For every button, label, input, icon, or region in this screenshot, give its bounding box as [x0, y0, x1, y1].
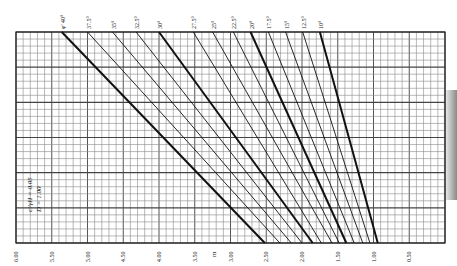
- phi-labels: φ' 40°37.5°35°32.5°30°27.5°25°22.5°20°17…: [60, 14, 324, 29]
- x-tick-label: 2.50: [263, 252, 269, 263]
- page-edge-shadow: [443, 90, 457, 200]
- parameter-annotation: c'/γH = 0.05 D = 1.00: [26, 177, 43, 213]
- phi-label: 25°: [211, 20, 217, 29]
- phi-label: 20°: [249, 20, 255, 29]
- phi-label: 35°: [111, 20, 117, 29]
- x-tick-label: 5.00: [85, 252, 91, 263]
- phi-label: 37.5°: [86, 16, 92, 30]
- x-tick-label: 3.00: [228, 252, 234, 263]
- phi-label: 30°: [157, 20, 163, 29]
- x-tick-label: 3.50: [192, 252, 198, 263]
- slope-stability-chart: φ' 40°37.5°35°32.5°30°27.5°25°22.5°20°17…: [0, 0, 457, 266]
- c-gammaH-label: c'/γH = 0.05: [26, 177, 34, 212]
- phi-label: 17.5°: [266, 16, 272, 30]
- x-tick-label: 0.50: [406, 252, 412, 263]
- x-tick-label: 2.00: [299, 252, 305, 263]
- x-tick-label: 4.00: [156, 252, 162, 263]
- phi-label: φ' 40°: [60, 14, 66, 29]
- phi-label: 32.5°: [134, 16, 140, 30]
- phi-label: 22.5°: [231, 16, 237, 30]
- phi-label: 15°: [284, 20, 290, 29]
- x-tick-label: 1.50: [335, 252, 341, 263]
- D-label: D = 1.00: [35, 186, 43, 213]
- phi-label: 12.5°: [301, 16, 307, 30]
- x-tick-label: 4.50: [120, 252, 126, 263]
- x-tick-label: 6.00: [13, 252, 19, 263]
- phi-label: 10°: [318, 20, 324, 29]
- phi-label: 27.5°: [191, 16, 197, 30]
- x-tick-label: 5.50: [49, 252, 55, 263]
- x-tick-label: 1.00: [371, 252, 377, 263]
- x-axis-label: m: [210, 251, 218, 257]
